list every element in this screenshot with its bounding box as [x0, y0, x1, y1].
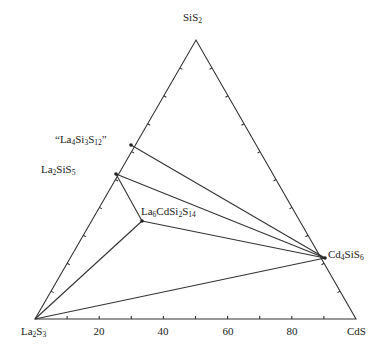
phase-point-la4si3s12: [129, 143, 133, 147]
p3-t1: SiS: [345, 248, 360, 260]
axis-tick-60: 60: [223, 326, 234, 337]
p0-s2: 12: [94, 138, 102, 147]
tie-line-la6cdsi2s14-la2s3: [35, 221, 142, 319]
vertex-label-sis2: SiS2: [183, 12, 202, 25]
p2-s2: 14: [188, 210, 196, 219]
p2-t1: CdSi: [156, 205, 178, 217]
p0-t0: “La: [55, 133, 71, 145]
phase-label-la4si3s12: “La4Si3S12”: [55, 134, 107, 147]
p1-t1: SiS: [56, 163, 71, 175]
phase-label-cd4sis6: Cd4SiS6: [328, 249, 364, 262]
axis-tick-20: 20: [94, 326, 105, 337]
p1-t0: La: [41, 163, 53, 175]
phase-label-la6cdsi2s14: La6CdSi2S14: [141, 206, 196, 219]
ternary-triangle: [35, 40, 356, 319]
phase-point-la6cdsi2s14: [140, 219, 144, 223]
tie-line-la6cdsi2s14-cd4sis6: [142, 221, 325, 258]
axis-tick-80: 80: [287, 326, 298, 337]
p1-s1: 5: [72, 168, 76, 177]
vertex-sis2-sub: 2: [198, 16, 202, 25]
phase-point-la2sis5: [114, 172, 118, 176]
p3-t0: Cd: [328, 248, 341, 260]
p2-t0: La: [141, 205, 153, 217]
axis-tick-40: 40: [158, 326, 169, 337]
vertex-label-la2s3: La2S3: [21, 326, 46, 339]
vertex-cds-text: CdS: [347, 325, 366, 337]
tie-line-la2s3-cd4sis6: [35, 258, 325, 319]
vertex-sis2-text: SiS: [183, 11, 198, 23]
phase-label-la2sis5: La2SiS5: [41, 164, 75, 177]
vertex-la2s3-s2: 3: [42, 330, 46, 339]
vertex-label-cds: CdS: [347, 326, 366, 337]
left-axis-ticks: [51, 68, 182, 293]
p0-t3: ”: [102, 133, 107, 145]
p3-s1: 6: [360, 253, 364, 262]
vertex-la2s3-t1: La: [21, 325, 33, 337]
tie-line-la2sis5-la6cdsi2s14: [116, 174, 142, 221]
phase-point-cd4sis6: [323, 256, 327, 260]
tie-line-la4si3s12-cd4sis6: [131, 145, 325, 258]
